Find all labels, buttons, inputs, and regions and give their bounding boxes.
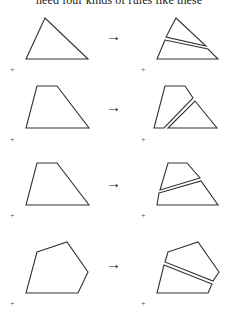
- row1-right-plus-icon: +: [141, 65, 146, 74]
- row4-right-plus-icon: +: [141, 299, 146, 308]
- row3-left-plus-icon: +: [10, 211, 15, 220]
- row4-arrow-icon: →: [106, 256, 121, 273]
- row3-arrow-icon: →: [106, 175, 121, 192]
- row2-left-plus-icon: +: [10, 135, 15, 144]
- row3-left-trapezoid: [26, 163, 89, 205]
- row4-right-split-pentagon: [157, 242, 219, 293]
- row3-right-plus-icon: +: [141, 211, 146, 220]
- row3-right-split-trapezoid: [157, 163, 218, 205]
- row2-right-plus-icon: +: [141, 135, 146, 144]
- row4-left-pentagon: [26, 242, 88, 293]
- row2-right-split-trapezoid: [154, 86, 217, 128]
- row2-arrow-icon: →: [106, 99, 121, 116]
- row1-left-triangle: [26, 18, 88, 59]
- row2-left-trapezoid: [26, 86, 89, 128]
- row1-left-plus-icon: +: [10, 65, 15, 74]
- row4-left-plus-icon: +: [10, 299, 15, 308]
- row1-right-split-triangle: [157, 18, 218, 59]
- row1-arrow-icon: →: [106, 28, 121, 45]
